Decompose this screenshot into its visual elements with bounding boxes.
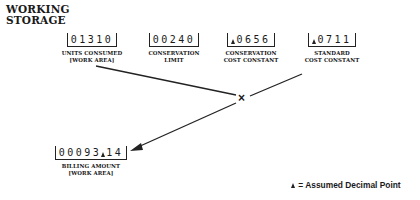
billing-amount-integer: 00093 bbox=[59, 147, 102, 158]
conservation-limit-label: CONSERVATION LIMIT bbox=[134, 50, 214, 64]
field-standard-cost-constant: 0711 STANDARD COST CONSTANT bbox=[292, 29, 372, 64]
conservation-cost-constant-label: CONSERVATION COST CONSTANT bbox=[211, 50, 291, 64]
conservation-limit-box: 00240 bbox=[149, 33, 200, 47]
legend-text: = Assumed Decimal Point bbox=[298, 180, 400, 190]
standard-cost-constant-label: STANDARD COST CONSTANT bbox=[292, 50, 372, 64]
billing-amount-decimal: 14 bbox=[106, 147, 123, 158]
line-units-to-multiply bbox=[96, 66, 236, 95]
line-cost-to-multiply bbox=[250, 74, 302, 96]
arrow-to-billing bbox=[138, 103, 236, 147]
units-consumed-label-2: [WORK AREA] bbox=[52, 57, 132, 64]
conservation-limit-label-2: LIMIT bbox=[134, 57, 214, 64]
billing-amount-label-1: BILLING AMOUNT bbox=[46, 163, 136, 170]
units-consumed-label: UNITS CONSUMED [WORK AREA] bbox=[52, 50, 132, 64]
field-billing-amount: 0009314 BILLING AMOUNT [WORK AREA] bbox=[46, 142, 136, 177]
standard-cost-constant-label-1: STANDARD bbox=[292, 50, 372, 57]
assumed-decimal-icon bbox=[312, 39, 316, 44]
units-consumed-box: 01310 bbox=[67, 33, 118, 47]
conservation-cost-constant-value: 0656 bbox=[236, 34, 270, 45]
field-conservation-cost-constant: 0656 CONSERVATION COST CONSTANT bbox=[211, 29, 291, 64]
conservation-limit-value: 00240 bbox=[153, 34, 196, 45]
standard-cost-constant-value: 0711 bbox=[317, 34, 351, 45]
billing-amount-box: 0009314 bbox=[55, 146, 128, 160]
legend: = Assumed Decimal Point bbox=[291, 180, 401, 190]
conservation-cost-constant-label-1: CONSERVATION bbox=[211, 50, 291, 57]
assumed-decimal-icon bbox=[231, 39, 235, 44]
field-units-consumed: 01310 UNITS CONSUMED [WORK AREA] bbox=[52, 29, 132, 64]
standard-cost-constant-label-2: COST CONSTANT bbox=[292, 57, 372, 64]
units-consumed-label-1: UNITS CONSUMED bbox=[52, 50, 132, 57]
conservation-cost-constant-box: 0656 bbox=[227, 33, 274, 47]
units-consumed-value: 01310 bbox=[71, 34, 114, 45]
field-conservation-limit: 00240 CONSERVATION LIMIT bbox=[134, 29, 214, 64]
assumed-decimal-icon bbox=[101, 152, 105, 157]
standard-cost-constant-box: 0711 bbox=[308, 33, 355, 47]
billing-amount-label: BILLING AMOUNT [WORK AREA] bbox=[46, 163, 136, 177]
billing-amount-label-2: [WORK AREA] bbox=[46, 170, 136, 177]
conservation-limit-label-1: CONSERVATION bbox=[134, 50, 214, 57]
multiply-operator: × bbox=[238, 91, 245, 105]
assumed-decimal-icon bbox=[291, 183, 295, 188]
conservation-cost-constant-label-2: COST CONSTANT bbox=[211, 57, 291, 64]
